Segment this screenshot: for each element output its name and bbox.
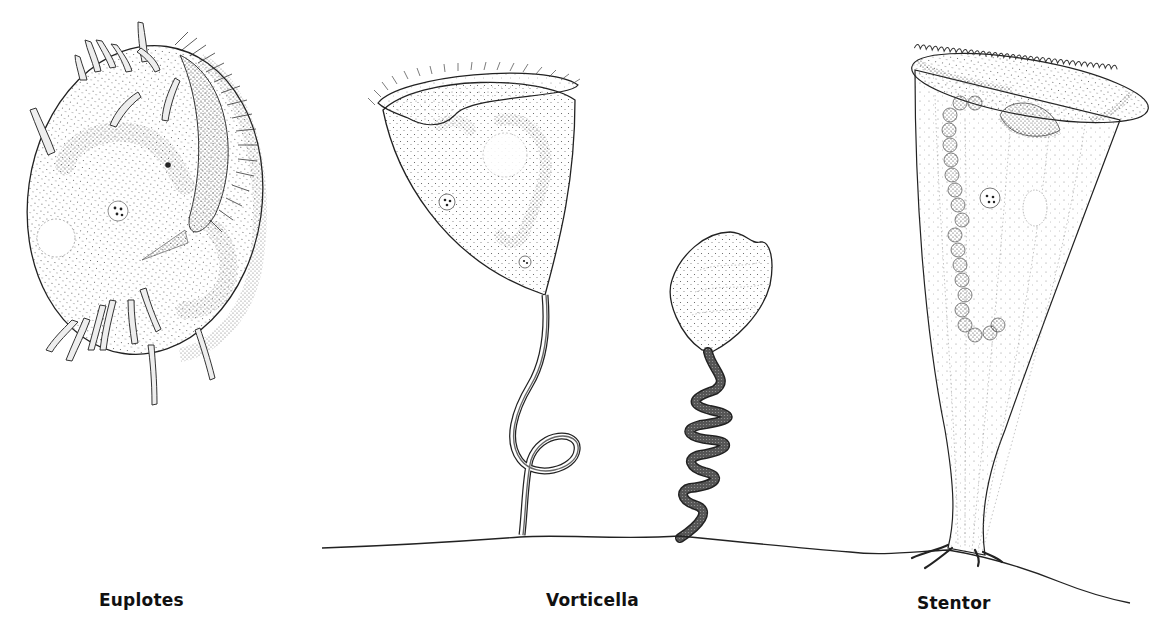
euplotes-drawing [8, 22, 283, 405]
ciliate-illustration [0, 0, 1154, 638]
label-vorticella: Vorticella [546, 590, 639, 610]
vorticella-extended-drawing [368, 62, 580, 535]
stentor-drawing [907, 40, 1153, 568]
substrate-line [322, 536, 1130, 603]
label-euplotes: Euplotes [99, 590, 184, 610]
vorticella-contracted-drawing [666, 225, 772, 538]
label-stentor: Stentor [917, 593, 991, 613]
